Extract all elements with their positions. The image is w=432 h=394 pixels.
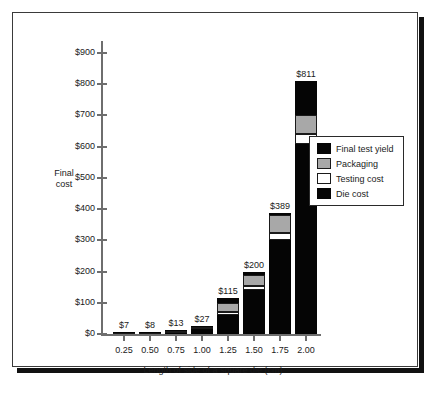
x-tick-mark — [201, 334, 203, 341]
bar-segment-final-test-yield — [243, 272, 265, 276]
bar-stack[interactable] — [243, 272, 265, 334]
legend-swatch-icon — [317, 173, 331, 184]
legend-label: Final test yield — [336, 144, 394, 154]
y-tick-label: $0 — [45, 329, 95, 339]
y-tick-label: $900 — [45, 48, 95, 58]
y-tick-label-text: $700 — [49, 110, 95, 119]
legend-swatch-icon — [317, 158, 331, 169]
bar-segment-die-cost — [217, 315, 239, 334]
y-axis-title: Finalcost — [41, 168, 87, 190]
bar-stack[interactable] — [269, 213, 291, 334]
frame-shadow-right — [419, 17, 424, 372]
x-tick-mark — [227, 334, 229, 341]
y-tick-mark — [97, 177, 107, 179]
y-tick-label: $300 — [45, 235, 95, 245]
y-tick-label-text: $0 — [49, 329, 95, 338]
y-tick-mark — [97, 333, 107, 335]
bar-segment-packaging — [217, 303, 239, 312]
y-tick-label-text: $600 — [49, 142, 95, 151]
chart-figure: $0$100$200$300$400$500$600$700$800$900 0… — [0, 0, 432, 394]
bar-segment-testing-cost — [269, 233, 291, 240]
y-tick-mark — [97, 114, 107, 116]
bar-segment-testing-cost — [243, 286, 265, 290]
y-tick-mark — [97, 52, 107, 54]
y-tick-label: $600 — [45, 142, 95, 152]
legend-swatch-icon — [317, 188, 331, 199]
y-tick-mark — [97, 271, 107, 273]
legend-label: Die cost — [336, 189, 369, 199]
bar-segment-final-test-yield — [295, 81, 317, 115]
bar-stack[interactable] — [113, 332, 135, 334]
bar-segment-die-cost — [243, 290, 265, 334]
y-tick-mark — [97, 239, 107, 241]
bar-segment-testing-cost — [217, 312, 239, 314]
bar-segment-final-test-yield — [139, 332, 161, 333]
y-tick-label-text: $800 — [49, 79, 95, 88]
legend-swatch-icon — [317, 143, 331, 154]
bar-value-label: $811 — [286, 69, 326, 79]
y-tick-mark — [97, 302, 107, 304]
x-tick-mark — [305, 334, 307, 341]
bar-value-label: $27 — [182, 314, 222, 324]
y-tick-label-text: $100 — [49, 298, 95, 307]
y-tick-label-text: $900 — [49, 48, 95, 57]
y-tick-label: $700 — [45, 110, 95, 120]
x-axis-title: Length of side of a square die (cm) — [73, 365, 353, 375]
legend-label: Packaging — [336, 159, 378, 169]
y-tick-mark — [97, 83, 107, 85]
y-axis-title-line: cost — [41, 179, 87, 190]
bar-segment-final-test-yield — [165, 330, 187, 331]
y-tick-label-text: $400 — [49, 204, 95, 213]
chart-legend: Final test yieldPackagingTesting costDie… — [309, 136, 404, 206]
y-tick-label: $800 — [45, 79, 95, 89]
y-tick-label: $200 — [45, 267, 95, 277]
bar-stack[interactable] — [217, 298, 239, 334]
bar-stack[interactable] — [191, 326, 213, 334]
y-axis-title-line: Final — [41, 168, 87, 179]
bar-segment-packaging — [269, 215, 291, 234]
bar-segment-packaging — [295, 115, 317, 134]
bar-stack[interactable] — [295, 81, 317, 334]
bar-stack[interactable] — [139, 332, 161, 334]
bar-segment-die-cost — [269, 240, 291, 334]
bar-segment-final-test-yield — [113, 332, 135, 333]
x-tick-label: 2.00 — [286, 345, 326, 355]
x-tick-mark — [149, 334, 151, 341]
bar-segment-final-test-yield — [269, 213, 291, 215]
bar-value-label: $115 — [208, 286, 248, 296]
y-tick-label-text: $200 — [49, 267, 95, 276]
y-tick-mark — [97, 146, 107, 148]
x-tick-mark — [123, 334, 125, 341]
x-tick-mark — [279, 334, 281, 341]
bar-segment-packaging — [243, 275, 265, 286]
plot-area: $0$100$200$300$400$500$600$700$800$900 0… — [13, 13, 419, 368]
bar-segment-final-test-yield — [217, 298, 239, 303]
x-tick-mark — [175, 334, 177, 341]
bar-value-label: $389 — [260, 201, 300, 211]
x-tick-mark — [253, 334, 255, 341]
y-tick-label: $100 — [45, 298, 95, 308]
legend-label: Testing cost — [336, 174, 384, 184]
chart-frame: $0$100$200$300$400$500$600$700$800$900 0… — [12, 12, 418, 367]
bar-stack[interactable] — [165, 330, 187, 334]
y-tick-label: $400 — [45, 204, 95, 214]
y-tick-label-text: $300 — [49, 235, 95, 244]
y-tick-mark — [97, 208, 107, 210]
bar-value-label: $200 — [234, 260, 274, 270]
bar-segment-final-test-yield — [191, 326, 213, 327]
